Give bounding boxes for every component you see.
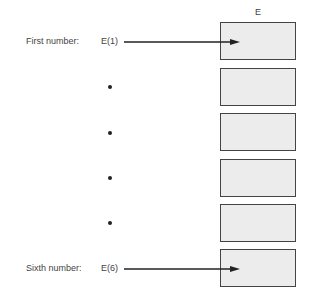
arrow-first-icon — [124, 39, 240, 45]
pointer-arrows — [0, 0, 317, 299]
array-diagram: E First number: E(1) Sixth number: E(6) — [0, 0, 317, 299]
arrow-sixth-icon — [124, 266, 240, 272]
